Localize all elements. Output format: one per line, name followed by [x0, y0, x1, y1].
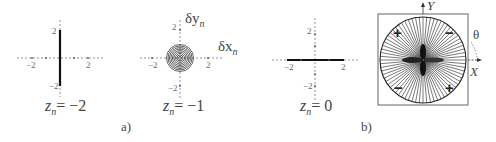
- tick-x-neg: −2: [26, 61, 36, 70]
- sign-bottom-left: −: [394, 80, 403, 95]
- axis-label-dx: δxn: [218, 39, 238, 57]
- sign-top-right: −: [445, 25, 454, 40]
- axis-label-dy: δyn: [185, 11, 205, 29]
- tick-x-pos: 2: [206, 61, 211, 70]
- tick-y-neg: −2: [303, 82, 313, 91]
- z-label-1: zn= −2: [45, 98, 86, 117]
- tick-y-neg: −2: [168, 84, 178, 93]
- subplot-zn-minus2: [17, 20, 103, 97]
- sign-bottom-right: +: [445, 80, 454, 95]
- panel-b-tag: b): [361, 120, 372, 133]
- sign-top-left: +: [393, 25, 402, 40]
- z-label-3: zn= 0: [300, 98, 332, 117]
- tick-y-pos: 2: [307, 27, 312, 36]
- tick-x-pos: 2: [86, 61, 91, 70]
- panel-a-tag: a): [121, 120, 131, 133]
- tick-y-pos: 2: [172, 23, 177, 32]
- tick-x-pos: 2: [341, 63, 346, 72]
- tick-x-neg: −2: [284, 63, 294, 72]
- z-label-2: zn= −1: [163, 98, 204, 117]
- tick-y-pos: 2: [52, 27, 57, 36]
- theta-arc: [471, 42, 477, 58]
- axis-label-X: X: [470, 65, 478, 78]
- figure-canvas: [0, 0, 496, 142]
- tick-y-neg: −2: [49, 82, 59, 91]
- angle-theta-label: θ: [473, 28, 479, 41]
- tick-x-neg: −2: [148, 61, 158, 70]
- subplot-zn-0: [272, 18, 360, 100]
- axis-label-Y: Y: [427, 0, 434, 12]
